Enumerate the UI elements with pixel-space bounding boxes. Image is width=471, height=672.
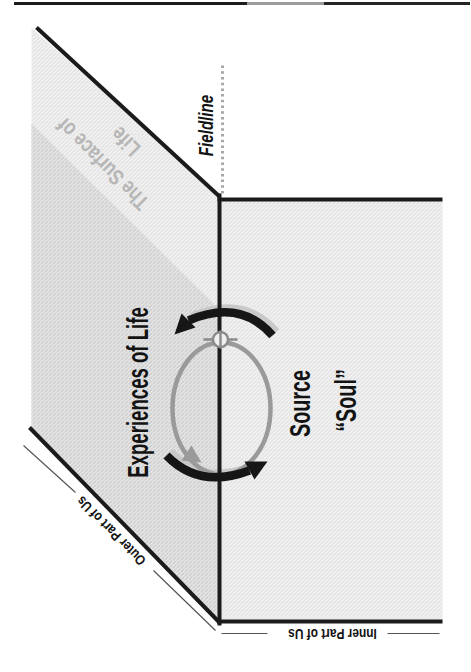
experiences-of-life-label: Experiences of Life bbox=[121, 307, 154, 478]
inner-part-of-us-label: Inner Part of Us bbox=[288, 625, 377, 640]
fieldline-label: Fieldline bbox=[193, 94, 216, 155]
rotated-figure: Fieldline The Surface of Life Experience… bbox=[0, 0, 471, 672]
source-label: Source bbox=[283, 369, 316, 436]
soul-label: “Soul” bbox=[329, 369, 362, 432]
page: Fieldline The Surface of Life Experience… bbox=[0, 0, 471, 672]
diagram-canvas bbox=[0, 0, 471, 672]
